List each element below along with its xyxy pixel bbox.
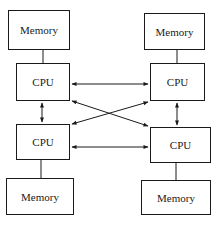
cpu-box-bottom-left: CPU [16, 124, 70, 160]
memory-label: Memory [157, 192, 195, 204]
multiprocessor-diagram: Memory CPU CPU Memory Memory CPU CPU Mem… [0, 0, 222, 229]
cpu-box-top-left: CPU [16, 63, 70, 101]
memory-label: Memory [156, 26, 194, 38]
memory-box-bottom-left: Memory [6, 178, 74, 215]
arrow-cpu-tr-cpu-bl [72, 102, 148, 124]
memory-box-bottom-right: Memory [141, 180, 211, 215]
memory-label: Memory [21, 191, 59, 203]
cpu-box-bottom-right: CPU [150, 127, 211, 163]
cpu-label: CPU [170, 139, 191, 151]
memory-box-top-left: Memory [8, 10, 70, 50]
cpu-label: CPU [32, 136, 53, 148]
cpu-box-top-right: CPU [150, 63, 205, 101]
cpu-label: CPU [32, 76, 53, 88]
memory-label: Memory [20, 24, 58, 36]
cpu-label: CPU [167, 76, 188, 88]
memory-box-top-right: Memory [144, 13, 205, 50]
